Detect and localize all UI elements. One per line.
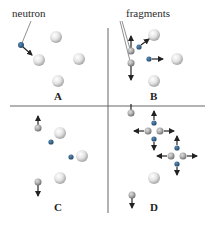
nucleus	[76, 150, 88, 162]
nucleus	[54, 172, 66, 184]
panel-d-label: D	[150, 201, 158, 213]
fragment	[168, 153, 175, 160]
neutron-particle	[18, 42, 24, 48]
fragment	[35, 125, 42, 132]
panel-d: D	[128, 104, 198, 213]
nucleus	[148, 172, 160, 184]
fragment	[180, 153, 187, 160]
panel-a: A	[18, 31, 85, 102]
neutron-particle	[136, 44, 141, 49]
fragment	[129, 192, 136, 199]
fragment	[157, 128, 164, 135]
nucleus	[52, 75, 64, 87]
nucleus	[171, 53, 183, 65]
neutron-particle	[48, 139, 53, 144]
neutron-particle	[174, 145, 179, 150]
neutron-leader-line	[22, 21, 31, 43]
nucleus	[33, 54, 45, 66]
neutron-particle	[174, 161, 179, 166]
fragments-leader-line-2	[120, 21, 130, 61]
fragment	[128, 48, 135, 55]
nucleus	[148, 29, 160, 41]
panel-a-label: A	[54, 90, 62, 102]
panel-b: B	[128, 29, 184, 102]
neutron-particle	[146, 56, 151, 61]
fragment	[128, 60, 135, 67]
fragment	[145, 128, 152, 135]
arrow-icon	[23, 47, 32, 55]
panel-c-label: C	[54, 201, 62, 213]
fission-diagram: neutron fragments A B	[0, 0, 216, 228]
fragment	[128, 110, 135, 117]
panel-b-label: B	[150, 90, 158, 102]
neutron-label: neutron	[12, 7, 46, 19]
panel-c: C	[35, 116, 89, 213]
nucleus	[73, 53, 85, 65]
neutron-particle	[68, 154, 73, 159]
arrow-icon	[141, 39, 149, 45]
nucleus	[50, 31, 62, 43]
neutron-particle	[151, 120, 156, 125]
nucleus	[54, 127, 66, 139]
neutron-particle	[151, 136, 156, 141]
fragment	[35, 179, 42, 186]
nucleus	[148, 75, 160, 87]
fragments-label: fragments	[126, 7, 170, 19]
